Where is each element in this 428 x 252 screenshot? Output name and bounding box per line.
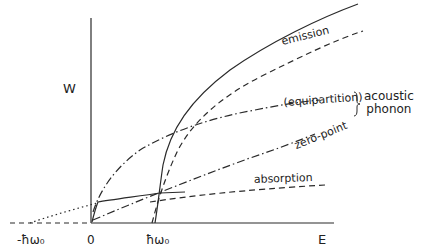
tick-label-origin: 0 [87,234,95,246]
scattering-rate-diagram: W E -ħω₀ 0 ħω₀ emission (equipartition) … [0,0,428,252]
group-label-line1: acoustic [364,90,414,103]
absorption-dashed-curve [150,185,325,202]
tick-label-hbar-omega: ħω₀ [146,234,169,246]
equipartition-curve [93,100,320,212]
negative-threshold-dotted-line [30,203,97,223]
absorption-solid-curve [92,192,185,222]
group-label-line2: phonon [364,103,414,116]
acoustic-phonon-group-label: acoustic phonon [364,90,414,115]
x-axis-label: E [318,233,326,246]
y-axis-label: W [63,82,76,95]
diagram-canvas [0,0,428,252]
tick-label-negative-hbar-omega: -ħω₀ [17,234,45,246]
absorption-label: absorption [254,172,313,185]
